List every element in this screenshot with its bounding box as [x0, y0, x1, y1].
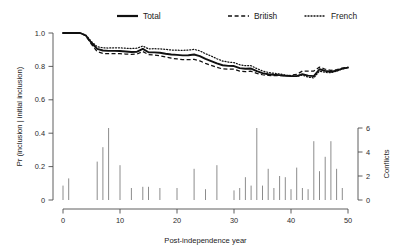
chart-axes	[49, 33, 363, 214]
y-axis-tick-label: 0.8	[35, 62, 45, 71]
chart-legend: TotalBritishFrench	[117, 11, 357, 21]
y-axis-tick-label: 0.6	[35, 95, 45, 104]
y2-axis-title: Conflicts	[382, 149, 391, 178]
series-line-british	[63, 33, 348, 76]
x-axis-tick-label: 30	[230, 216, 238, 225]
probability-series	[63, 33, 348, 78]
y2-axis-tick-label: 2	[366, 172, 370, 181]
x-axis-title: Post-independence year	[164, 236, 247, 245]
chart-labels: 00.20.40.60.81.0010203040500246Pr (inclu…	[15, 29, 391, 245]
x-axis-tick-label: 0	[61, 216, 65, 225]
chart-canvas: 00.20.40.60.81.0010203040500246Pr (inclu…	[0, 0, 402, 252]
series-line-total	[63, 33, 348, 76]
y-axis-tick-label: 1.0	[35, 29, 45, 38]
legend-label-british: British	[254, 11, 278, 21]
legend-label-total: Total	[143, 11, 161, 21]
chart-figure: 00.20.40.60.81.0010203040500246Pr (inclu…	[0, 0, 402, 252]
x-axis-tick-label: 40	[287, 216, 295, 225]
y-axis-title: Pr (inclusion | initial inclusion)	[15, 66, 24, 166]
y2-axis-tick-label: 6	[366, 124, 370, 133]
x-axis-tick-label: 20	[173, 216, 181, 225]
x-axis-tick-label: 50	[344, 216, 352, 225]
y-axis-tick-label: 0.4	[35, 129, 45, 138]
legend-label-french: French	[331, 11, 357, 21]
y2-axis-tick-label: 0	[366, 196, 370, 205]
y2-axis-tick-label: 4	[366, 148, 370, 157]
y-axis-tick-label: 0.2	[35, 162, 45, 171]
conflict-bars	[63, 128, 342, 200]
y-axis-tick-label: 0	[41, 196, 45, 205]
x-axis-tick-label: 10	[116, 216, 124, 225]
